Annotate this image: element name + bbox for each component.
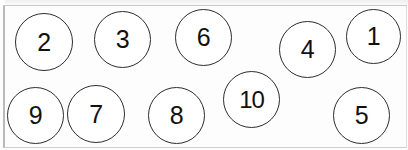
circle-node-label: 7 [89,102,102,127]
circle-node-label: 4 [301,37,314,62]
circle-node-3[interactable]: 3 [94,11,151,68]
circle-node-4[interactable]: 4 [279,21,336,78]
circle-node-6[interactable]: 6 [175,9,232,66]
circle-node-label: 3 [116,27,129,52]
diagram-canvas: 23641978105 [0,0,408,150]
circle-node-1[interactable]: 1 [346,9,401,64]
circle-node-label: 8 [170,103,183,128]
circle-node-label: 1 [367,24,380,49]
circle-node-2[interactable]: 2 [15,13,73,71]
page-top-shading [5,0,408,5]
circle-node-9[interactable]: 9 [7,87,64,144]
circle-node-label: 6 [197,25,210,50]
circle-node-label: 9 [29,103,42,128]
circle-node-7[interactable]: 7 [67,85,125,143]
circle-node-label: 10 [239,88,264,112]
circle-node-label: 5 [355,103,368,128]
circle-node-5[interactable]: 5 [333,87,390,144]
circle-node-8[interactable]: 8 [148,87,205,144]
circle-node-label: 2 [37,30,50,55]
circle-node-10[interactable]: 10 [223,71,280,128]
